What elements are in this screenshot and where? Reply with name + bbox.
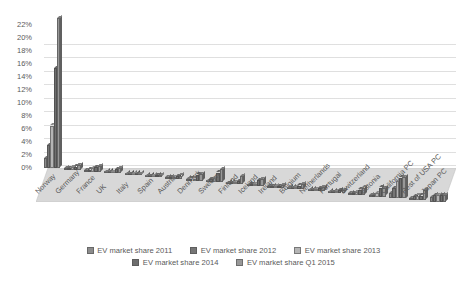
bar [138, 174, 141, 175]
x-axis: NorwayGermanyFranceUKItalySpainAustriaDe… [30, 188, 460, 248]
legend-row-1: EV market share 2011EV market share 2012… [78, 246, 390, 255]
bar-group [125, 174, 142, 175]
bar-side [60, 15, 62, 167]
y-axis-tick: 2% [21, 151, 32, 159]
bar-face [118, 168, 121, 173]
bar [179, 176, 182, 179]
y-axis-tick: 20% [17, 34, 32, 42]
y-axis-tick: 14% [17, 73, 32, 81]
legend-item[interactable]: EV market share 2012 [190, 246, 276, 255]
legend-label: EV market share 2012 [201, 246, 277, 255]
y-axis-tick: 18% [17, 47, 32, 55]
bar-face [159, 175, 162, 177]
bar [118, 168, 121, 173]
legend-label: EV market share 2011 [97, 246, 172, 255]
y-axis-tick: 6% [21, 125, 32, 133]
bar-face [57, 18, 60, 168]
legend-swatch-icon [132, 259, 139, 266]
legend-item[interactable]: EV market share 2011 [87, 246, 173, 255]
legend-item[interactable]: EV market share 2013 [294, 246, 380, 255]
chart-root: 0%2%4%6%8%10%12%14%16%18%20%22% NorwayGe… [0, 0, 467, 293]
bar [159, 176, 162, 177]
bar-group [84, 171, 101, 172]
y-axis-tick: 22% [17, 21, 32, 29]
plot-area [36, 18, 456, 186]
bar-group [104, 172, 121, 173]
legend-row-2: EV market share 2014EV market share Q1 2… [123, 258, 343, 267]
y-axis-tick: 8% [21, 112, 32, 120]
chart-legend: EV market share 2011EV market share 2012… [0, 246, 467, 267]
legend-swatch-icon [294, 247, 301, 254]
y-axis-tick: 12% [17, 86, 32, 94]
y-axis-tick: 0% [21, 164, 32, 172]
legend-item[interactable]: EV market share Q1 2015 [236, 258, 334, 267]
y-axis-tick: 10% [17, 99, 32, 107]
legend-label: EV market share Q1 2015 [247, 258, 335, 267]
y-axis-tick: 4% [21, 138, 32, 146]
legend-label: EV market share 2014 [143, 258, 219, 267]
bar-face [77, 165, 80, 170]
legend-label: EV market share 2013 [305, 246, 381, 255]
bar-face [179, 176, 182, 179]
legend-swatch-icon [236, 259, 243, 266]
bar [98, 166, 101, 172]
legend-item[interactable]: EV market share 2014 [132, 258, 218, 267]
y-axis-tick: 16% [17, 60, 32, 68]
bar-face [98, 166, 101, 172]
legend-swatch-icon [87, 247, 94, 254]
bar-group [44, 167, 61, 168]
bar [57, 18, 60, 168]
y-axis: 0%2%4%6%8%10%12%14%16%18%20%22% [0, 18, 34, 170]
legend-swatch-icon [190, 247, 197, 254]
bar [77, 165, 80, 170]
